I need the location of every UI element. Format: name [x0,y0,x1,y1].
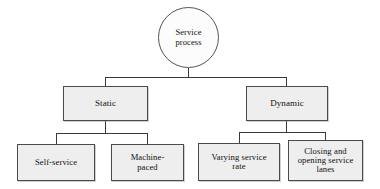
node-closing-and-opening-service-lanes: Closing andopening servicelanes [288,140,363,181]
node-closing-line3: lanes [316,164,334,174]
node-dynamic-label: Dynamic [270,99,304,109]
node-self-service: Self-service [17,144,95,181]
node-service-process: Serviceprocess [158,7,219,68]
node-service-process-line2: process [175,37,201,47]
node-closing-and-opening-service-lanes-label: Closing andopening servicelanes [298,147,354,175]
node-dynamic: Dynamic [246,86,328,121]
connector-dynamic-bus [239,132,326,133]
connector-static-bus [56,133,148,134]
node-machine-paced-label: Machine-paced [131,153,165,172]
service-process-diagram: Serviceprocess Static Dynamic Self-servi… [0,0,380,189]
node-varying-service-rate-line2: rate [232,161,245,171]
node-varying-service-rate: Varying servicerate [198,143,280,181]
node-static: Static [63,86,148,121]
node-self-service-label: Self-service [35,158,77,167]
node-varying-service-rate-label: Varying servicerate [211,153,266,172]
connector-dynamic-stem [286,121,287,132]
node-machine-paced-line2: paced [137,162,158,172]
node-machine-paced: Machine-paced [111,144,184,181]
node-self-service-line1: Self-service [35,157,77,167]
node-static-label: Static [95,99,116,109]
connector-static-stem [105,121,106,133]
node-service-process-label: Serviceprocess [175,28,201,46]
connector-level2-bus [105,77,287,78]
